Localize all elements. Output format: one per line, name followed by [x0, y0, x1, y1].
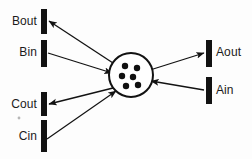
electrode-bar-bout	[41, 9, 47, 34]
electrode-bar-cin	[41, 120, 47, 152]
electrode-bar-ain	[206, 77, 212, 104]
port-label-ain: Ain	[216, 84, 234, 96]
diagram-graphics	[0, 0, 252, 159]
port-label-aout: Aout	[216, 46, 241, 58]
port-label-cout: Cout	[2, 98, 37, 110]
particle-dot	[123, 83, 129, 89]
diagram-canvas: BoutBinCoutCinAoutAin	[0, 0, 252, 159]
flow-arrow-cin	[47, 91, 116, 139]
particle-dot	[134, 65, 140, 71]
particle-dot	[122, 63, 128, 69]
particle-dot	[135, 82, 141, 88]
particle-dot	[119, 73, 125, 79]
port-label-bin: Bin	[2, 46, 37, 58]
stray-speck-icon	[18, 117, 21, 120]
electrode-bar-aout	[206, 40, 212, 67]
flow-arrow-cout	[49, 88, 113, 104]
electrode-bar-cout	[41, 92, 47, 116]
flow-arrow-ain	[151, 81, 204, 90]
flow-arrow-aout	[150, 53, 204, 70]
port-label-bout: Bout	[2, 15, 37, 27]
electrode-bar-bin	[41, 40, 47, 67]
port-label-cin: Cin	[2, 130, 37, 142]
particle-dot	[130, 74, 136, 80]
